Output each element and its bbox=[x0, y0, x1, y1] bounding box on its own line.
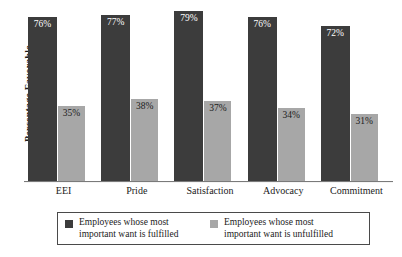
bar-value-label: 31% bbox=[351, 116, 378, 127]
bar-value-label: 79% bbox=[174, 13, 203, 24]
legend-label-fulfilled: Employees whose most important want is f… bbox=[79, 217, 178, 240]
bar-value-label: 76% bbox=[28, 19, 57, 30]
bar-value-label: 76% bbox=[248, 19, 277, 30]
bar-fulfilled: 79% bbox=[174, 11, 203, 181]
bar-unfulfilled: 35% bbox=[58, 106, 85, 181]
legend-swatch-light-icon bbox=[210, 220, 218, 228]
bar-unfulfilled: 37% bbox=[204, 101, 231, 181]
bar-value-label: 37% bbox=[204, 103, 231, 114]
bar-value-label: 34% bbox=[278, 110, 305, 121]
category-label-pride: Pride bbox=[100, 184, 173, 198]
bar-fulfilled: 76% bbox=[248, 17, 277, 181]
bar-unfulfilled: 38% bbox=[131, 99, 158, 181]
x-axis-category-labels: EEIPrideSatisfactionAdvocacyCommitment bbox=[27, 184, 393, 200]
legend-item-unfulfilled: Employees whose most important want is u… bbox=[210, 217, 333, 240]
bar-value-label: 72% bbox=[321, 28, 350, 39]
bar-value-label: 35% bbox=[58, 108, 85, 119]
bar-value-label: 77% bbox=[101, 17, 130, 28]
legend-item-fulfilled: Employees whose most important want is f… bbox=[65, 217, 178, 240]
category-label-eei: EEI bbox=[27, 184, 100, 198]
plot-area: 76%35%77%38%79%37%76%34%72%31% bbox=[27, 0, 393, 181]
x-axis-shadow bbox=[24, 181, 393, 183]
category-label-satisfaction: Satisfaction bbox=[173, 184, 246, 198]
chart-legend: Employees whose most important want is f… bbox=[57, 212, 370, 245]
bar-fulfilled: 72% bbox=[321, 26, 350, 181]
bar-unfulfilled: 31% bbox=[351, 114, 378, 181]
category-label-advocacy: Advocacy bbox=[247, 184, 320, 198]
category-label-commitment: Commitment bbox=[320, 184, 393, 198]
bar-unfulfilled: 34% bbox=[278, 108, 305, 181]
legend-label-unfulfilled: Employees whose most important want is u… bbox=[224, 217, 333, 240]
bar-group: 77%38% bbox=[101, 0, 174, 181]
bar-group: 76%34% bbox=[248, 0, 321, 181]
bar-fulfilled: 76% bbox=[28, 17, 57, 181]
bar-group: 76%35% bbox=[28, 0, 101, 181]
bar-group: 72%31% bbox=[321, 0, 394, 181]
bar-fulfilled: 77% bbox=[101, 15, 130, 181]
bar-value-label: 38% bbox=[131, 101, 158, 112]
bar-chart: Percentage Favorable 76%35%77%38%79%37%7… bbox=[0, 0, 402, 257]
legend-swatch-dark-icon bbox=[65, 220, 73, 228]
bar-group: 79%37% bbox=[174, 0, 247, 181]
